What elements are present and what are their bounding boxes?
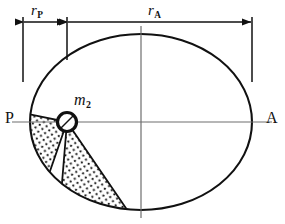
focus-marker-m2	[58, 113, 77, 132]
label-rp-base: r	[31, 2, 37, 18]
label-perihelion-distance: rP	[31, 3, 43, 20]
label-rp-subscript: P	[37, 10, 43, 20]
label-perihelion-point: P	[5, 110, 14, 126]
label-orbiting-mass: m2	[74, 92, 91, 110]
label-ra-subscript: A	[154, 10, 161, 20]
label-m2-base: m	[74, 91, 86, 108]
orbit-diagram: rP rA m2 P A	[0, 0, 285, 224]
label-aphelion-distance: rA	[148, 3, 161, 20]
orbit-diagram-canvas	[0, 0, 285, 224]
label-aphelion-point: A	[266, 110, 278, 126]
dimension-extension-lines	[23, 17, 252, 82]
label-ra-base: r	[148, 2, 154, 18]
label-m2-subscript: 2	[86, 99, 91, 110]
